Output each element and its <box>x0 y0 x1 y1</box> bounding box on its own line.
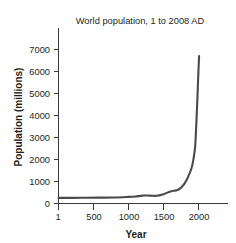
x-tick-label: 500 <box>86 212 102 222</box>
y-tick-label: 4000 <box>29 111 50 121</box>
y-tick-label: 6000 <box>29 67 50 77</box>
chart-title: World population, 1 to 2008 AD <box>76 16 205 26</box>
y-tick-label: 1000 <box>29 177 50 187</box>
x-tick-label: 1 <box>55 212 60 222</box>
population-line-chart: World population, 1 to 2008 AD 7000 6000… <box>0 0 236 243</box>
y-axis-title: Population (millions) <box>13 68 24 167</box>
y-tick-label: 7000 <box>29 45 50 55</box>
x-tick-label: 1500 <box>154 212 175 222</box>
y-tick-label: 5000 <box>29 89 50 99</box>
x-axis-title: Year <box>125 229 146 240</box>
x-tick-label: 1000 <box>119 212 140 222</box>
y-tick-label: 0 <box>45 199 50 209</box>
y-tick-label: 3000 <box>29 133 50 143</box>
chart-background <box>0 0 236 243</box>
y-tick-label: 2000 <box>29 155 50 165</box>
x-tick-label: 2000 <box>189 212 210 222</box>
chart-figure: World population, 1 to 2008 AD 7000 6000… <box>0 0 236 243</box>
